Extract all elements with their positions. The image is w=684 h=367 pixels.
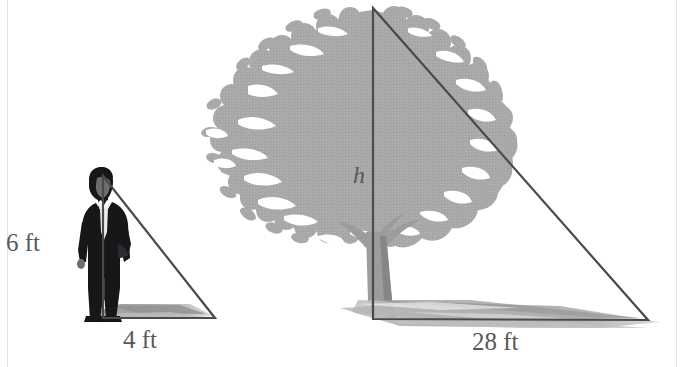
label-tree-shadow: 28 ft [472,329,519,354]
label-man-height: 6 ft [6,230,40,255]
man-illustration [77,167,214,322]
similar-triangles-figure: 6 ft 4 ft h 28 ft [0,0,684,367]
tree-ground-shadow [340,300,660,328]
figure-canvas [0,0,684,367]
label-tree-height: h [353,163,365,187]
tree-illustration [200,5,660,328]
label-man-shadow: 4 ft [123,327,157,352]
